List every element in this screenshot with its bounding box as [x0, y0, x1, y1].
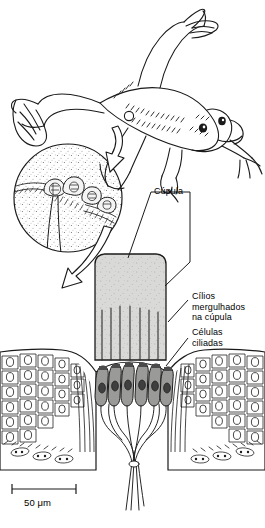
figure-container: Cúpula Cílios mergulhados na cúpula Célu…	[0, 0, 265, 528]
scale-bar	[12, 484, 76, 494]
leader-cupula-diag	[128, 192, 151, 258]
label-cilia: Cílios mergulhados na cúpula	[192, 291, 245, 323]
label-hair-cells: Células ciliadas	[192, 327, 223, 348]
label-cupula: Cúpula	[154, 186, 183, 197]
neuromast-cross-section	[0, 0, 265, 528]
cupula-shape	[92, 250, 172, 365]
leader-cupula-v	[165, 192, 190, 286]
nerve-fibers	[101, 404, 166, 510]
scale-bar-label: 50 μm	[24, 498, 51, 509]
hair-cells	[95, 363, 173, 406]
leader-cilia	[168, 300, 188, 322]
